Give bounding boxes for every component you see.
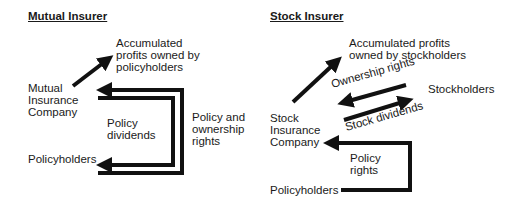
stock-ownership-arrow xyxy=(345,85,406,102)
mutual-title: Mutual Insurer xyxy=(28,10,107,22)
mutual-company-label: Mutual Insurance Company xyxy=(28,82,79,118)
stock-profits-arrow xyxy=(293,62,336,102)
stock-policy-rights-label: Policy rights xyxy=(350,152,381,176)
stock-title: Stock Insurer xyxy=(270,10,344,22)
mutual-policyholders-label: Policyholders xyxy=(28,153,96,165)
stock-stockholders-label: Stockholders xyxy=(428,83,494,95)
mutual-dividends-label: Policy dividends xyxy=(107,117,156,141)
mutual-profits-label: Accumulated profits owned by policyholde… xyxy=(116,37,200,73)
stock-company-label: Stock Insurance Company xyxy=(270,112,321,148)
stock-policyholders-label: Policyholders xyxy=(270,184,338,196)
mutual-rights-label: Policy and ownership rights xyxy=(192,111,245,147)
